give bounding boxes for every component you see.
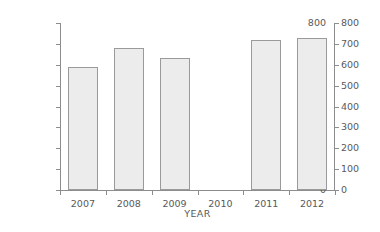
y-axis-right-tick: [335, 148, 339, 149]
bar-2011: [251, 40, 281, 190]
y-axis-right-tick: [335, 65, 339, 66]
bar-2009: [160, 58, 190, 190]
bar-chart: Thousand Canadian dollars 01002003004005…: [0, 0, 380, 232]
y-axis-right-tick-label: 300: [341, 122, 371, 132]
x-axis-tick: [198, 191, 199, 195]
plot-area: 0100200300400500600700800 01002003004005…: [60, 23, 335, 190]
x-axis-tick: [335, 191, 336, 195]
y-axis-right-tick: [335, 23, 339, 24]
y-axis-left-tick: [56, 169, 60, 170]
y-axis-left-tick: [56, 65, 60, 66]
y-axis-left-tick: [56, 23, 60, 24]
y-axis-right-tick: [335, 44, 339, 45]
x-axis-tick: [60, 191, 61, 195]
y-axis-right-tick: [335, 127, 339, 128]
y-axis-right-tick-label: 200: [341, 143, 371, 153]
y-axis-right-tick-label: 0: [341, 185, 371, 195]
y-axis-right-tick: [335, 107, 339, 108]
y-axis-left-tick-label: 800: [296, 18, 326, 28]
x-axis-tick: [152, 191, 153, 195]
bar-2008: [114, 48, 144, 190]
y-axis-left-tick: [56, 44, 60, 45]
x-axis-tick: [243, 191, 244, 195]
y-axis-right-tick-label: 800: [341, 18, 371, 28]
y-axis-right-tick-label: 100: [341, 164, 371, 174]
y-axis-left-tick: [56, 107, 60, 108]
y-axis-right-tick-label: 700: [341, 39, 371, 49]
y-axis-right-tick: [335, 86, 339, 87]
x-axis-tick: [289, 191, 290, 195]
bar-2012: [297, 38, 327, 190]
y-axis-right-tick-label: 500: [341, 81, 371, 91]
x-axis-tick: [106, 191, 107, 195]
y-axis-left-tick: [56, 127, 60, 128]
y-axis-left-tick: [56, 86, 60, 87]
y-axis-right-tick-label: 400: [341, 102, 371, 112]
x-axis-title: YEAR: [60, 208, 335, 219]
y-axis-right-tick: [335, 169, 339, 170]
bar-2007: [68, 67, 98, 190]
y-axis-right-tick-label: 600: [341, 60, 371, 70]
y-axis-left-line: [60, 23, 61, 190]
y-axis-left-tick: [56, 148, 60, 149]
